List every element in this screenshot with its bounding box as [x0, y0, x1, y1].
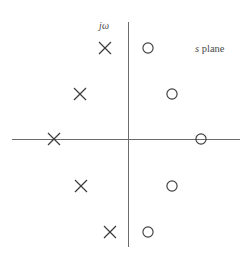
zero-marker [167, 181, 177, 191]
pole-marker [104, 226, 116, 238]
axes-group [12, 22, 240, 247]
plot-canvas [0, 0, 249, 260]
s-plane-label: s plane [195, 43, 224, 54]
pole-marker [75, 180, 87, 192]
pole-marker [99, 42, 111, 54]
pole-marker [74, 88, 86, 100]
zero-marker [143, 43, 153, 53]
s-plane-pole-zero-figure: jω s plane [0, 0, 249, 260]
zero-marker [143, 227, 153, 237]
zero-marker [167, 89, 177, 99]
imaginary-axis-label: jω [99, 20, 109, 31]
s-plane-label-word: plane [199, 43, 224, 54]
